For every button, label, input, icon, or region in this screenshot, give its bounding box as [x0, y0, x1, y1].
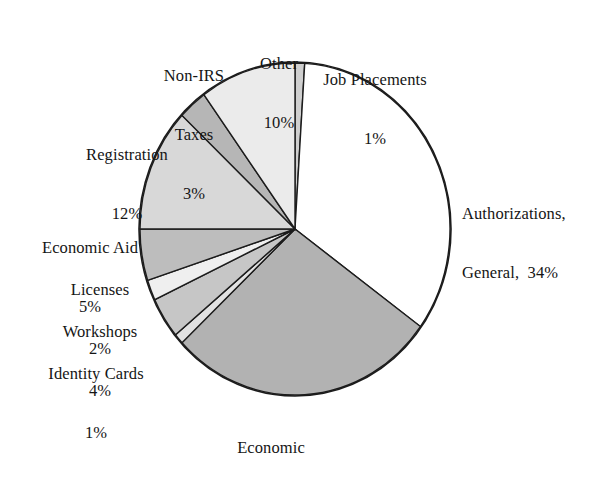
slice-label-authorizations-general: Authorizations, General, 34% — [462, 164, 598, 322]
slice-label-economic-subsidies: Economic Subsidies 28% — [198, 398, 344, 486]
slice-label-identity-cards-name: Identity Cards — [28, 364, 164, 384]
slice-label-identity-cards-percent: 1% — [28, 423, 164, 443]
slice-label-non-irs-taxes-name1: Non-IRS — [140, 66, 248, 86]
pie-chart: Other 10% Non-IRS Taxes 3% Job Placement… — [0, 0, 600, 486]
slice-label-job-placements-percent: 1% — [300, 129, 450, 149]
slice-label-job-placements: Job Placements 1% — [300, 30, 450, 188]
slice-label-authorizations-general-percent: General, 34% — [462, 263, 598, 283]
slice-label-authorizations-general-name: Authorizations, — [462, 204, 598, 224]
slice-label-registration-name: Registration — [62, 145, 192, 165]
slice-label-job-placements-name: Job Placements — [300, 70, 450, 90]
slice-label-economic-subsidies-name1: Economic — [198, 438, 344, 458]
slice-label-identity-cards: Identity Cards 1% — [28, 324, 164, 482]
